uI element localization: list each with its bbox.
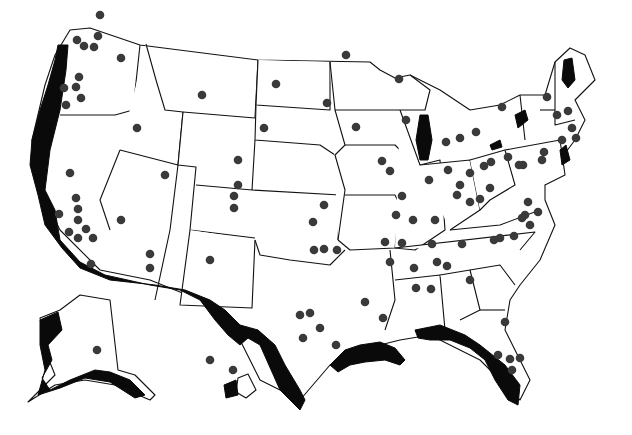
location-dot bbox=[466, 276, 475, 285]
location-dot bbox=[352, 123, 361, 132]
location-dot bbox=[526, 221, 535, 230]
location-dot bbox=[230, 204, 239, 213]
location-dot bbox=[90, 43, 99, 52]
location-dot bbox=[472, 128, 481, 137]
location-dot bbox=[381, 238, 390, 247]
location-dot bbox=[80, 42, 89, 51]
location-dot bbox=[506, 355, 515, 364]
location-dot bbox=[332, 341, 341, 350]
location-dot bbox=[272, 80, 281, 89]
location-dot bbox=[323, 99, 332, 108]
us-map-svg bbox=[0, 0, 632, 435]
location-dot bbox=[428, 240, 437, 249]
location-dot bbox=[466, 169, 475, 178]
state-border-line bbox=[256, 60, 330, 110]
location-dot bbox=[62, 101, 71, 110]
location-dot bbox=[508, 366, 517, 375]
location-dot bbox=[342, 51, 351, 60]
location-dot bbox=[487, 158, 496, 167]
location-dot bbox=[498, 103, 507, 112]
location-dot bbox=[73, 36, 82, 45]
location-dot bbox=[161, 171, 170, 180]
location-dot bbox=[117, 54, 126, 63]
location-dot bbox=[361, 298, 370, 307]
location-dot bbox=[456, 134, 465, 143]
location-dot bbox=[93, 346, 102, 355]
location-dot bbox=[234, 181, 243, 190]
location-dot bbox=[538, 156, 547, 165]
location-dot bbox=[543, 93, 552, 102]
location-dot bbox=[333, 246, 342, 255]
location-dot bbox=[206, 356, 215, 365]
location-dot bbox=[66, 169, 75, 178]
location-dot bbox=[425, 176, 434, 185]
location-dot bbox=[386, 167, 395, 176]
location-dot bbox=[534, 208, 543, 217]
location-dot bbox=[378, 157, 387, 166]
location-dot bbox=[234, 156, 243, 165]
hawaii-shaded-area bbox=[224, 380, 238, 398]
location-dot bbox=[260, 124, 269, 133]
location-dot bbox=[206, 256, 215, 265]
location-dot bbox=[442, 138, 451, 147]
location-dot bbox=[320, 201, 329, 210]
location-dot bbox=[504, 153, 513, 162]
us-map bbox=[0, 0, 632, 435]
location-dot bbox=[510, 232, 519, 241]
location-dot bbox=[60, 84, 69, 93]
location-dot bbox=[309, 218, 318, 227]
location-dot bbox=[72, 83, 81, 92]
location-dot bbox=[494, 351, 503, 360]
location-dot bbox=[230, 192, 239, 201]
location-dot bbox=[133, 124, 142, 133]
location-dot bbox=[568, 124, 577, 133]
state-border-line bbox=[180, 230, 255, 308]
location-dot bbox=[456, 181, 465, 190]
location-dot bbox=[490, 236, 499, 245]
location-dot bbox=[306, 309, 315, 318]
location-dot bbox=[412, 284, 421, 293]
location-dot bbox=[402, 116, 411, 125]
location-dot bbox=[94, 32, 103, 41]
location-dot bbox=[433, 258, 442, 267]
location-dot bbox=[564, 107, 573, 116]
location-dot bbox=[410, 264, 419, 273]
location-dot bbox=[75, 73, 84, 82]
location-dot bbox=[296, 311, 305, 320]
location-dot bbox=[558, 136, 567, 145]
location-dot bbox=[89, 234, 98, 243]
location-dot bbox=[392, 211, 401, 220]
location-dot bbox=[310, 246, 319, 255]
location-dot bbox=[87, 260, 96, 269]
location-dot bbox=[379, 314, 388, 323]
location-dot bbox=[398, 192, 407, 201]
location-dot bbox=[431, 216, 440, 225]
location-dot bbox=[427, 285, 436, 294]
location-dot bbox=[146, 264, 155, 273]
location-dot bbox=[476, 195, 485, 204]
location-dot bbox=[77, 94, 86, 103]
location-dot bbox=[55, 210, 64, 219]
location-dot bbox=[299, 334, 308, 343]
location-dot bbox=[146, 250, 155, 259]
location-dot bbox=[486, 184, 495, 193]
location-dot bbox=[572, 134, 581, 143]
location-dot bbox=[553, 111, 562, 120]
location-dot bbox=[540, 148, 549, 157]
location-dot bbox=[443, 262, 452, 271]
location-dot bbox=[444, 166, 453, 175]
location-dot bbox=[386, 258, 395, 267]
location-dot bbox=[74, 234, 83, 243]
location-dot bbox=[65, 228, 74, 237]
location-dot bbox=[320, 245, 329, 254]
location-dot bbox=[82, 225, 91, 234]
location-dot bbox=[96, 11, 105, 20]
location-dot bbox=[409, 216, 418, 225]
location-dot bbox=[515, 161, 524, 170]
location-dot bbox=[74, 205, 83, 214]
location-dot bbox=[74, 216, 83, 225]
location-dot bbox=[501, 318, 510, 327]
location-dot bbox=[398, 239, 407, 248]
location-dot bbox=[198, 91, 207, 100]
location-dot bbox=[466, 198, 475, 207]
